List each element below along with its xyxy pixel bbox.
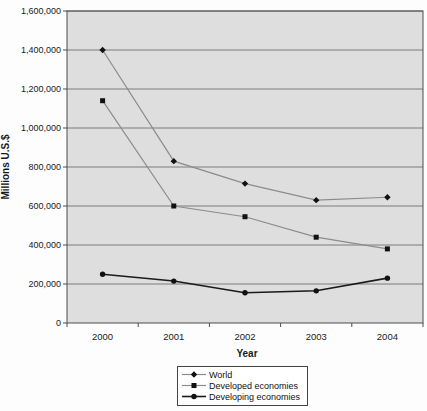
y-tick-label: 1,200,000 xyxy=(21,84,61,94)
y-ticks-group xyxy=(63,11,67,323)
y-axis-title: Millions U.S.$ xyxy=(0,134,11,199)
chart-legend: WorldDeveloped economiesDeveloping econo… xyxy=(177,366,308,406)
legend-marker-square-icon xyxy=(182,381,206,390)
y-tick-label: 0 xyxy=(56,318,61,328)
legend-item: Developed economies xyxy=(182,380,300,391)
y-tick-label: 600,000 xyxy=(28,201,61,211)
x-tick-label: 2004 xyxy=(377,331,398,342)
legend-label: World xyxy=(209,370,232,380)
legend-marker-diamond-icon xyxy=(182,370,206,379)
data-point-marker-circle xyxy=(242,290,247,295)
data-point-marker-square xyxy=(100,98,105,103)
data-point-marker-diamond xyxy=(191,371,197,377)
y-tick-label: 200,000 xyxy=(28,279,61,289)
chart-canvas: 0200,000400,000600,000800,0001,000,0001,… xyxy=(0,0,427,411)
y-tick-label: 1,400,000 xyxy=(21,45,61,55)
legend-label: Developing economies xyxy=(209,392,300,402)
y-tick-label: 800,000 xyxy=(28,162,61,172)
x-tick-labels-group: 20002001200220032004 xyxy=(92,331,398,342)
data-point-marker-square xyxy=(171,204,176,209)
x-tick-label: 2000 xyxy=(92,331,113,342)
data-point-marker-square xyxy=(314,235,319,240)
x-axis-title: Year xyxy=(236,348,257,359)
data-point-marker-circle xyxy=(100,272,105,277)
legend-item: World xyxy=(182,369,300,380)
x-tick-label: 2001 xyxy=(163,331,184,342)
data-point-marker-circle xyxy=(314,288,319,293)
y-tick-label: 1,600,000 xyxy=(21,6,61,16)
legend-item: Developing economies xyxy=(182,391,300,402)
y-tick-labels-group: 0200,000400,000600,000800,0001,000,0001,… xyxy=(21,6,61,328)
x-tick-label: 2003 xyxy=(306,331,327,342)
chart-figure: 0200,000400,000600,000800,0001,000,0001,… xyxy=(0,0,427,411)
x-tick-label: 2002 xyxy=(234,331,255,342)
data-point-marker-circle xyxy=(385,275,390,280)
x-ticks-group xyxy=(67,323,423,327)
legend-label: Developed economies xyxy=(209,381,298,391)
data-point-marker-square xyxy=(385,246,390,251)
y-tick-label: 1,000,000 xyxy=(21,123,61,133)
y-tick-label: 400,000 xyxy=(28,240,61,250)
data-point-marker-square xyxy=(243,214,248,219)
data-point-marker-circle xyxy=(191,394,196,399)
legend-marker-circle-icon xyxy=(182,392,206,401)
data-point-marker-square xyxy=(192,383,197,388)
data-point-marker-circle xyxy=(171,278,176,283)
